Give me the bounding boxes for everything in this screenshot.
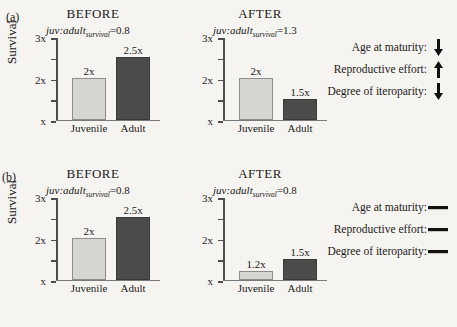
bar-value: 2x [84,225,95,237]
y-tick-x: x [218,281,223,283]
bar-value: 2x [251,65,262,77]
y-tick-3x: 3x [218,198,223,200]
y-tick-minor-2 [218,260,223,262]
chart-b-before: BEFORE juv:adultsurvival=0.8 Survival 3x… [18,162,168,312]
down-arrow-icon [427,81,449,101]
y-tick-label-3x: 3x [35,33,46,44]
y-tick-2x: 2x [51,240,56,242]
bar-juvenile: 1.2x Juvenile [239,271,273,279]
chart-title: BEFORE [18,166,168,182]
bar-juvenile: 2x Juvenile [72,78,106,120]
horizontal-bar-icon [427,219,449,239]
y-tick-label-3x: 3x [202,193,213,204]
bar-value: 2.5x [123,44,142,56]
horizontal-bar-icon [427,197,449,217]
category-label-adult: Adult [120,282,145,294]
y-tick-minor-1 [218,59,223,61]
y-tick-2x: 2x [218,80,223,82]
annotation-label: Degree of iteroparity: [327,245,427,257]
annotation-list-a: Age at maturity: Reproductive effort: De… [279,36,449,102]
y-tick-label-x: x [208,276,214,287]
y-tick-label-2x: 2x [35,234,46,245]
y-tick-minor-2 [218,100,223,102]
y-tick-minor-1 [51,219,56,221]
bar-juvenile: 2x Juvenile [239,78,273,120]
chart-title: BEFORE [18,6,168,22]
y-axis-line [56,38,58,121]
y-tick-label-x: x [41,276,47,287]
annotation-item: Reproductive effort: [279,58,449,80]
y-tick-2x: 2x [218,240,223,242]
ratio-annotation: juv:adultsurvival=0.8 [46,24,130,39]
y-tick-x: x [51,281,56,283]
y-axis-line [223,38,225,121]
bar-adult: 2.5x Adult [116,217,150,279]
y-axis-label: Survival [4,20,20,64]
plot-area: 3x 2x x 2x Juvenile 2.5x Adult [56,38,160,121]
annotation-label: Reproductive effort: [334,223,427,235]
panel-row-b: (b) BEFORE juv:adultsurvival=0.8 Surviva… [0,160,457,320]
up-arrow-icon [427,59,449,79]
annotation-item: Degree of iteroparity: [279,240,449,262]
annotation-item: Age at maturity: [279,196,449,218]
y-tick-label-2x: 2x [35,74,46,85]
y-tick-minor-2 [51,100,56,102]
y-tick-3x: 3x [51,198,56,200]
annotation-list-b: Age at maturity: Reproductive effort: De… [279,196,449,262]
annotation-label: Age at maturity: [352,201,427,213]
y-tick-minor-1 [218,219,223,221]
plot-area: 3x 2x x 2x Juvenile 2.5x Adult [56,198,160,281]
y-tick-label-2x: 2x [202,74,213,85]
bar-juvenile: 2x Juvenile [72,238,106,280]
chart-title: AFTER [185,6,335,22]
category-label-juvenile: Juvenile [71,282,108,294]
annotation-item: Reproductive effort: [279,218,449,240]
category-label-juvenile: Juvenile [238,122,275,134]
y-axis-line [223,198,225,281]
y-tick-label-2x: 2x [202,234,213,245]
annotation-label: Reproductive effort: [334,63,427,75]
category-label-adult: Adult [120,122,145,134]
y-tick-label-x: x [208,116,214,127]
panel-row-a: (a) BEFORE juv:adultsurvival=0.8 Surviva… [0,0,457,160]
bar-value: 2x [84,65,95,77]
category-label-juvenile: Juvenile [238,282,275,294]
annotation-label: Age at maturity: [352,41,427,53]
y-tick-label-x: x [41,116,47,127]
bar-adult: 2.5x Adult [116,57,150,119]
y-tick-3x: 3x [51,38,56,40]
annotation-item: Age at maturity: [279,36,449,58]
y-tick-x: x [218,121,223,123]
bar-value: 1.2x [246,258,265,270]
horizontal-bar-icon [427,241,449,261]
bar-value: 2.5x [123,204,142,216]
chart-a-before: BEFORE juv:adultsurvival=0.8 Survival 3x… [18,2,168,152]
annotation-label: Degree of iteroparity: [327,85,427,97]
y-axis-line [56,198,58,281]
category-label-adult: Adult [287,282,312,294]
y-axis-label: Survival [4,180,20,224]
down-arrow-icon [427,37,449,57]
ratio-annotation: juv:adultsurvival=0.8 [46,184,130,199]
category-label-adult: Adult [287,122,312,134]
y-tick-2x: 2x [51,80,56,82]
chart-title: AFTER [185,166,335,182]
y-tick-x: x [51,121,56,123]
y-tick-3x: 3x [218,38,223,40]
annotation-item: Degree of iteroparity: [279,80,449,102]
category-label-juvenile: Juvenile [71,122,108,134]
y-tick-minor-2 [51,260,56,262]
y-tick-label-3x: 3x [202,33,213,44]
y-tick-label-3x: 3x [35,193,46,204]
y-tick-minor-1 [51,59,56,61]
